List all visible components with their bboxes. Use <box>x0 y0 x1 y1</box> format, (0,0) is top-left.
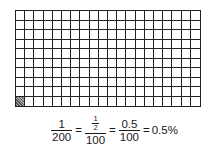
grid-square <box>53 87 62 97</box>
grid-square <box>145 78 154 88</box>
grid-square <box>71 40 80 50</box>
grid-square <box>163 30 172 40</box>
grid-square <box>108 68 117 78</box>
grid-square <box>136 40 145 50</box>
grid-square <box>80 68 89 78</box>
grid-square <box>145 40 154 50</box>
grid-square <box>16 21 25 31</box>
grid-square <box>34 78 43 88</box>
grid-square <box>145 87 154 97</box>
fraction-one-over-200: 1 200 <box>51 118 72 143</box>
grid-square <box>117 59 126 69</box>
grid-square <box>90 87 99 97</box>
grid-square <box>44 78 53 88</box>
grid-square <box>34 87 43 97</box>
grid-square <box>126 78 135 88</box>
grid-square <box>154 87 163 97</box>
grid-square <box>71 30 80 40</box>
grid-square <box>25 40 34 50</box>
grid-square <box>117 87 126 97</box>
grid-square <box>108 11 117 21</box>
grid-square <box>62 49 71 59</box>
grid-square <box>44 40 53 50</box>
grid-square <box>34 11 43 21</box>
grid-square <box>154 59 163 69</box>
grid-square <box>145 68 154 78</box>
grid-square <box>71 87 80 97</box>
grid-square <box>108 30 117 40</box>
grid-square <box>25 11 34 21</box>
numerator: 1 <box>92 115 98 123</box>
grid-square <box>172 11 181 21</box>
grid-square <box>44 21 53 31</box>
grid-square <box>53 40 62 50</box>
grid-square <box>53 11 62 21</box>
grid-square <box>108 40 117 50</box>
grid-square <box>136 87 145 97</box>
grid-square <box>71 21 80 31</box>
grid-square <box>145 11 154 21</box>
grid-square <box>99 78 108 88</box>
grid-square <box>163 21 172 31</box>
grid-square <box>191 11 200 21</box>
grid-square <box>99 97 108 107</box>
grid-square <box>44 30 53 40</box>
grid-square <box>80 87 89 97</box>
grid-square <box>172 21 181 31</box>
grid-square <box>53 59 62 69</box>
grid-square <box>172 78 181 88</box>
grid-square <box>16 40 25 50</box>
grid-square <box>62 87 71 97</box>
grid-square <box>117 78 126 88</box>
grid-square <box>117 68 126 78</box>
equals-sign: = <box>75 124 82 136</box>
grid-square <box>126 40 135 50</box>
grid-square <box>71 11 80 21</box>
grid-square <box>90 97 99 107</box>
grid-square <box>136 97 145 107</box>
grid-square <box>25 78 34 88</box>
grid-square <box>191 40 200 50</box>
grid-square <box>71 78 80 88</box>
grid-square <box>44 87 53 97</box>
denominator: 100 <box>119 130 140 143</box>
grid-square <box>99 30 108 40</box>
grid-square <box>191 78 200 88</box>
grid-square <box>108 78 117 88</box>
grid-square <box>172 49 181 59</box>
grid-square <box>62 21 71 31</box>
denominator: 200 <box>51 130 72 143</box>
grid-square <box>163 40 172 50</box>
grid-square <box>80 49 89 59</box>
grid-square <box>172 87 181 97</box>
grid-square <box>108 49 117 59</box>
grid-square <box>182 11 191 21</box>
grid-square <box>16 49 25 59</box>
grid-square <box>99 40 108 50</box>
grid-square <box>16 11 25 21</box>
grid-square <box>53 97 62 107</box>
grid-square <box>99 87 108 97</box>
grid-square <box>53 49 62 59</box>
grid-square <box>16 78 25 88</box>
grid-square <box>117 11 126 21</box>
grid-square <box>108 87 117 97</box>
grid-square <box>172 68 181 78</box>
grid-square <box>80 21 89 31</box>
grid-square <box>126 30 135 40</box>
grid-square <box>16 59 25 69</box>
grid-square <box>191 21 200 31</box>
grid-square <box>126 49 135 59</box>
grid-square <box>71 68 80 78</box>
grid-square <box>53 30 62 40</box>
grid-square <box>145 97 154 107</box>
grid-square <box>80 59 89 69</box>
grid-square-shaded <box>16 97 25 107</box>
grid-square <box>172 59 181 69</box>
grid-square <box>25 49 34 59</box>
grid-square <box>99 21 108 31</box>
grid-square <box>62 30 71 40</box>
grid-square <box>136 59 145 69</box>
fraction-0.5-over-100: 0.5 100 <box>119 118 140 143</box>
grid-square <box>154 68 163 78</box>
